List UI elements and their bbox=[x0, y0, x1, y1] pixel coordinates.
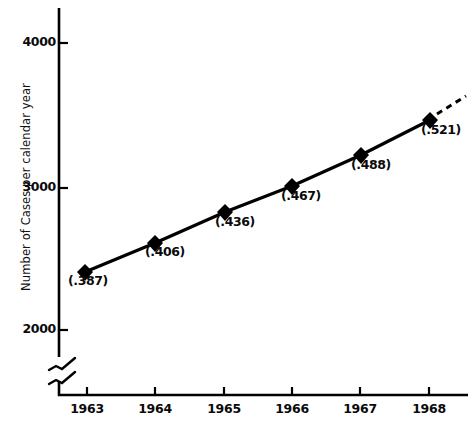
data-line-series-1 bbox=[85, 120, 430, 272]
y-tick-label-3000: 3000 bbox=[8, 179, 56, 194]
data-label-1966: (.467) bbox=[281, 188, 321, 203]
y-tick-marks bbox=[59, 43, 68, 330]
x-tick-label-1963: 1963 bbox=[57, 401, 117, 416]
data-label-1968: (.521) bbox=[421, 122, 461, 137]
data-label-1963: (.387) bbox=[68, 273, 108, 288]
x-tick-label-1968: 1968 bbox=[399, 401, 459, 416]
data-label-1964: (.406) bbox=[145, 244, 185, 259]
x-tick-label-1966: 1966 bbox=[262, 401, 322, 416]
x-tick-label-1965: 1965 bbox=[194, 401, 254, 416]
data-label-1967: (.488) bbox=[351, 157, 391, 172]
x-tick-label-1964: 1964 bbox=[125, 401, 185, 416]
chart-figure: Number of Cases per calendar year 4000 3… bbox=[0, 0, 471, 424]
y-tick-label-4000: 4000 bbox=[8, 34, 56, 49]
data-point-markers bbox=[77, 112, 438, 281]
y-tick-label-2000: 2000 bbox=[8, 321, 56, 336]
x-tick-label-1967: 1967 bbox=[330, 401, 390, 416]
chart-canvas bbox=[0, 0, 471, 424]
data-label-1965: (.436) bbox=[215, 214, 255, 229]
y-axis-break-icon bbox=[49, 358, 75, 384]
data-line-projection-dashed bbox=[437, 96, 466, 114]
